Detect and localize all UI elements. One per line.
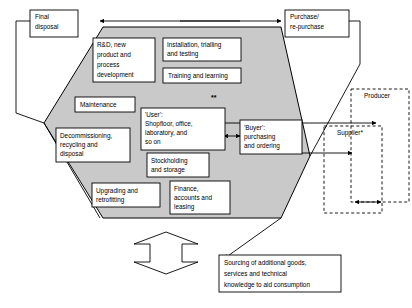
box-sourcing-l2: knowledge to aid consumption xyxy=(224,281,310,289)
diagram-canvas: R&D, new product and process development… xyxy=(0,0,412,308)
box-sourcing-l1: services and technical xyxy=(224,270,287,277)
box-final-disposal-l1: disposal xyxy=(35,23,58,31)
box-sourcing-l0: Sourcing of additional goods, xyxy=(224,259,307,267)
box-stockholding-l1: and storage xyxy=(151,166,185,174)
box-supplier-label: Supplier* xyxy=(337,129,363,137)
box-installation-trialling-l0: Installation, trialling xyxy=(167,41,222,49)
box-user-l0: 'User': xyxy=(145,111,163,118)
box-rd-new-product-l1: product and xyxy=(97,51,131,59)
hollow-down-arrow xyxy=(134,232,198,274)
box-rd-new-product-l2: process xyxy=(97,61,119,69)
box-buyer-l2: and ordering xyxy=(244,142,280,150)
box-training-learning-l0: Training and learning xyxy=(168,72,228,80)
box-rd-new-product-l0: R&D, new xyxy=(97,41,126,48)
box-final-disposal-l0: Final xyxy=(35,13,49,20)
box-buyer-l0: 'Buyer': xyxy=(244,124,265,132)
box-decommissioning-l0: Decommissioning, xyxy=(60,132,112,140)
box-finance-l0: Finance, xyxy=(174,185,199,192)
box-upgrading-l0: Upgrading and xyxy=(96,187,138,195)
box-maintenance-l0: Maintenance xyxy=(80,101,117,108)
box-user-l1: Shopfloor, office, xyxy=(145,120,193,128)
box-decommissioning-l2: disposal xyxy=(60,150,83,158)
box-supplier xyxy=(324,126,382,213)
box-upgrading-l1: retrofitting xyxy=(96,196,125,204)
box-stockholding-l0: Stockholding xyxy=(151,157,188,165)
diagram-svg: R&D, new product and process development… xyxy=(0,0,412,308)
box-purchase-l0: Purchase/ xyxy=(290,13,319,20)
box-user-l2: laboratory, and xyxy=(145,129,188,137)
box-finance-l1: accounts and xyxy=(174,194,212,201)
box-finance-l2: leasing xyxy=(174,203,195,211)
double-asterisk-marker: ** xyxy=(211,94,217,101)
box-producer xyxy=(351,89,409,202)
box-producer-label: Producer xyxy=(364,92,391,99)
box-buyer-l1: purchasing xyxy=(244,133,276,141)
box-purchase-l1: re-purchase xyxy=(290,23,325,31)
box-rd-new-product-l3: development xyxy=(97,71,134,79)
connector-to-sourcing xyxy=(225,218,281,258)
box-installation-trialling-l1: and testing xyxy=(167,50,199,58)
box-decommissioning-l1: recycling and xyxy=(60,141,98,149)
box-user-l3: so on xyxy=(145,138,161,145)
